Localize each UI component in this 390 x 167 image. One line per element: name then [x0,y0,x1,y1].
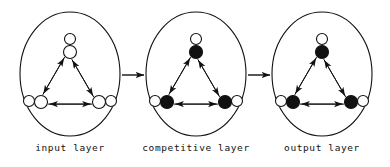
network-diagram: input layercompetitive layeroutput layer [0,0,390,167]
node-bottom-left[interactable] [287,96,300,109]
self-loop-bottom-left [150,96,161,107]
layer-label-output-layer: output layer [284,142,360,153]
node-top[interactable] [190,46,203,59]
layer-edges [169,57,220,104]
node-bottom-right[interactable] [93,96,106,109]
node-bottom-right[interactable] [345,96,358,109]
node-bottom-left[interactable] [35,96,48,109]
self-loop-bottom-left [24,96,35,107]
edge-top-bottom-right [198,60,219,97]
edge-top-bottom-right [324,60,345,97]
layer-boundary-ellipse [146,12,246,136]
self-loop-top [317,34,328,45]
layer-edges [43,57,94,104]
self-loop-bottom-right [358,96,369,107]
node-top[interactable] [64,46,77,59]
self-loop-bottom-right [106,96,117,107]
self-loop-top [191,34,202,45]
layer-input-layer[interactable] [20,12,120,136]
self-loop-bottom-right [232,96,243,107]
edge-top-bottom-right [72,60,93,97]
figure-canvas: input layercompetitive layeroutput layer [0,0,390,167]
edge-top-bottom-left [295,58,316,95]
node-bottom-left[interactable] [161,96,174,109]
layer-edges [295,57,346,104]
self-loop-top [65,34,76,45]
node-bottom-right[interactable] [219,96,232,109]
layer-label-input-layer: input layer [35,142,105,153]
layer-boundary-ellipse [272,12,372,136]
layer-competitive-layer[interactable] [146,12,246,136]
layer-label-competitive-layer: competitive layer [142,142,249,153]
layer-output-layer[interactable] [272,12,372,136]
self-loop-bottom-left [276,96,287,107]
layer-boundary-ellipse [20,12,120,136]
edge-top-bottom-left [169,58,190,95]
layers-group [20,12,372,136]
edge-top-bottom-left [43,58,64,95]
labels-group: input layercompetitive layeroutput layer [35,142,360,153]
node-top[interactable] [316,46,329,59]
